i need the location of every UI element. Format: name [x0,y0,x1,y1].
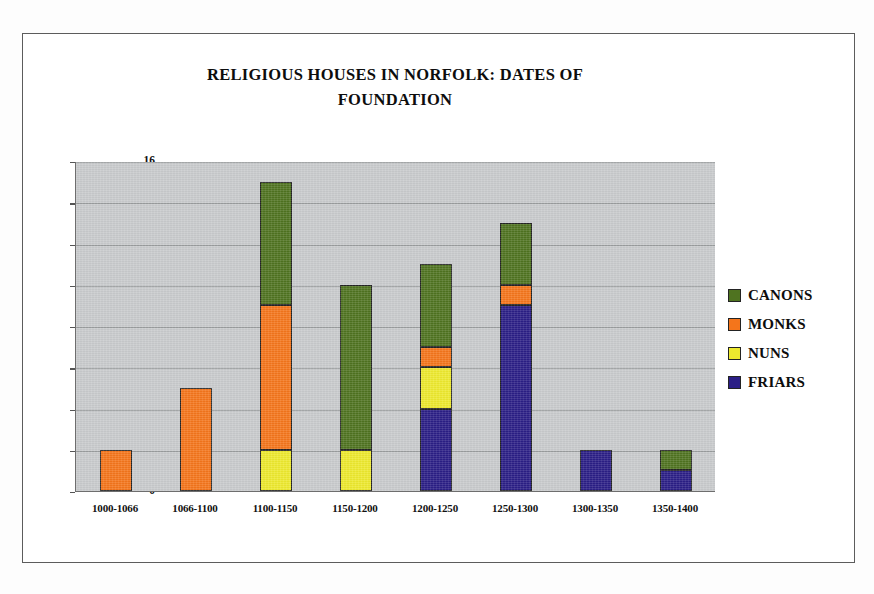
legend-label: FRIARS [748,374,805,391]
legend-swatch-friars [728,376,741,389]
bar-slot [316,162,396,491]
chart-title: RELIGIOUS HOUSES IN NORFOLK: DATES OF FO… [90,62,700,112]
bar-segment-friars[interactable] [580,450,612,491]
x-axis-tick-label: 1300-1350 [550,502,640,514]
bar-segment-nuns[interactable] [260,450,292,491]
stacked-bar[interactable] [420,162,452,491]
x-axis-tick-label: 1250-1300 [470,502,560,514]
bar-segment-canons[interactable] [420,264,452,347]
legend-item[interactable]: NUNS [728,339,813,368]
stacked-bar[interactable] [180,162,212,491]
legend-item[interactable]: CANONS [728,281,813,310]
bar-segment-friars[interactable] [500,305,532,491]
bar-segment-canons[interactable] [500,223,532,285]
bar-segment-nuns[interactable] [420,367,452,408]
legend-label: MONKS [748,316,806,333]
plot-area [75,162,715,492]
bar-segment-friars[interactable] [660,470,692,491]
bar-segment-friars[interactable] [420,409,452,492]
y-axis-tick-mark [70,492,75,493]
x-axis-tick-label: 1200-1250 [390,502,480,514]
stacked-bar[interactable] [100,162,132,491]
bar-slot [476,162,556,491]
bar-slot [636,162,716,491]
x-axis-tick-label: 1150-1200 [310,502,400,514]
bar-segment-canons[interactable] [660,450,692,471]
bar-slot [556,162,636,491]
bar-segment-monks[interactable] [420,347,452,368]
bar-segment-monks[interactable] [180,388,212,491]
stacked-bar[interactable] [660,162,692,491]
stacked-bar[interactable] [500,162,532,491]
legend-swatch-canons [728,289,741,302]
bar-segment-monks[interactable] [260,305,292,449]
legend-item[interactable]: MONKS [728,310,813,339]
bar-slot [396,162,476,491]
page-canvas: RELIGIOUS HOUSES IN NORFOLK: DATES OF FO… [0,0,874,594]
chart-legend: CANONSMONKSNUNSFRIARS [728,281,813,397]
x-axis-tick-label: 1000-1066 [70,502,160,514]
bar-segment-monks[interactable] [500,285,532,306]
bar-series-group [76,162,715,491]
legend-label: NUNS [748,345,790,362]
bar-segment-canons[interactable] [260,182,292,306]
x-axis-tick-label: 1066-1100 [150,502,240,514]
stacked-bar[interactable] [340,162,372,491]
bar-segment-monks[interactable] [100,450,132,491]
stacked-bar[interactable] [580,162,612,491]
legend-label: CANONS [748,287,813,304]
legend-swatch-monks [728,318,741,331]
bar-slot [236,162,316,491]
bar-segment-nuns[interactable] [340,450,372,491]
bar-slot [76,162,156,491]
legend-item[interactable]: FRIARS [728,368,813,397]
x-axis-tick-label: 1350-1400 [630,502,720,514]
bar-segment-canons[interactable] [340,285,372,450]
x-axis-tick-label: 1100-1150 [230,502,320,514]
legend-swatch-nuns [728,347,741,360]
bar-slot [156,162,236,491]
stacked-bar[interactable] [260,162,292,491]
